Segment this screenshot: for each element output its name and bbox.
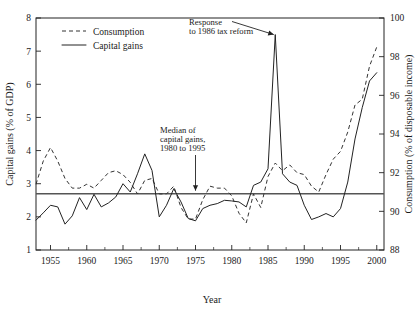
y-axis-left-tick-label: 4 (26, 146, 31, 156)
y-axis-right-tick-label: 90 (390, 207, 400, 217)
y-axis-right-ticks: 889092949698100 (379, 13, 405, 255)
y-axis-left-tick-label: 2 (26, 212, 31, 222)
y-axis-right-tick-label: 94 (390, 129, 400, 139)
x-axis-title: Year (203, 294, 222, 305)
legend-label-consumption: Consumption (93, 27, 144, 37)
x-axis-tick-label: 1975 (186, 256, 205, 266)
data-series-layer (36, 35, 377, 225)
chart-figure: 12345678 889092949698100 195519601965197… (0, 0, 420, 314)
y-axis-right-title: Consumption (% of disposable income) (403, 55, 415, 214)
x-axis-tick-label: 2000 (367, 256, 386, 266)
y-axis-right-tick-label: 96 (390, 91, 400, 101)
capital-gains-consumption-chart: 12345678 889092949698100 195519601965197… (0, 0, 420, 314)
y-axis-left-tick-label: 6 (26, 80, 31, 90)
response-annotation-line-2: to 1986 tax reform (189, 26, 254, 36)
x-axis-tick-label: 1960 (77, 256, 96, 266)
x-axis-tick-label: 1970 (150, 256, 169, 266)
y-axis-left-title: Capital gains (% of GDP) (4, 82, 16, 185)
x-axis-ticks: 1955196019651970197519801985199019952000 (41, 245, 387, 266)
chart-legend: Consumption Capital gains (62, 27, 144, 51)
response-annotation: Response to 1986 tax reform (189, 17, 274, 36)
x-axis-tick-label: 1995 (331, 256, 350, 266)
series-capital-gains (36, 35, 377, 225)
x-axis-tick-label: 1965 (114, 256, 133, 266)
y-axis-left-tick-label: 8 (26, 13, 31, 23)
plot-frame (36, 18, 384, 250)
response-annotation-arrowhead (268, 30, 274, 35)
y-axis-right-tick-label: 92 (390, 168, 400, 178)
y-axis-left-tick-label: 5 (26, 113, 31, 123)
y-axis-left-ticks: 12345678 (26, 13, 41, 255)
y-axis-left-tick-label: 7 (26, 47, 31, 57)
median-annotation: Median of capital gains, 1980 to 1995 (160, 125, 205, 191)
y-axis-right-tick-label: 98 (390, 52, 400, 62)
median-annotation-line-3: 1980 to 1995 (160, 143, 205, 153)
x-axis-tick-label: 1980 (222, 256, 241, 266)
y-axis-right-tick-label: 88 (390, 245, 400, 255)
y-axis-right-tick-label: 100 (390, 13, 405, 23)
x-axis-tick-label: 1985 (259, 256, 278, 266)
legend-label-capital-gains: Capital gains (93, 41, 143, 51)
y-axis-left-tick-label: 1 (26, 245, 31, 255)
median-annotation-arrowhead (193, 185, 198, 191)
y-axis-left-tick-label: 3 (26, 179, 31, 189)
x-axis-tick-label: 1990 (295, 256, 314, 266)
x-axis-tick-label: 1955 (41, 256, 60, 266)
series-consumption (36, 47, 377, 223)
